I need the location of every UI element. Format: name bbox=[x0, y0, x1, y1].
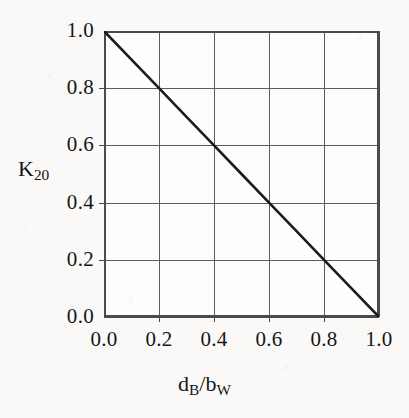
y-tick-label: 0.0 bbox=[32, 306, 94, 327]
plot-area bbox=[104, 31, 379, 317]
y-tick-label: 0.8 bbox=[32, 77, 94, 98]
y-axis-label-base: K bbox=[18, 156, 34, 181]
data-series-layer bbox=[104, 31, 379, 317]
y-tick-label: 0.2 bbox=[32, 249, 94, 270]
x-axis-tick-labels: 0.00.20.40.60.81.0 bbox=[0, 329, 409, 357]
y-tick-label: 0.6 bbox=[32, 134, 94, 155]
x-axis-label-base1: d bbox=[178, 371, 189, 396]
y-axis-label: K20 bbox=[18, 158, 49, 186]
y-tick-label: 0.4 bbox=[32, 192, 94, 213]
chart-figure: 0.00.20.40.60.81.0 0.00.20.40.60.81.0 K2… bbox=[0, 0, 409, 418]
x-axis-label-base2: b bbox=[205, 371, 216, 396]
x-tick-label: 0.6 bbox=[239, 329, 299, 350]
x-tick-label: 0.2 bbox=[129, 329, 189, 350]
x-tick-label: 0.8 bbox=[294, 329, 354, 350]
y-axis-label-subscript: 20 bbox=[34, 166, 49, 183]
x-tick-label: 0.4 bbox=[184, 329, 244, 350]
x-axis-label: dB/bW bbox=[0, 372, 409, 402]
x-axis-label-subscript2: W bbox=[216, 381, 231, 398]
x-tick-label: 0.0 bbox=[74, 329, 134, 350]
y-tick-label: 1.0 bbox=[32, 20, 94, 41]
x-tick-label: 1.0 bbox=[349, 329, 409, 350]
x-axis-label-subscript1: B bbox=[189, 381, 199, 398]
